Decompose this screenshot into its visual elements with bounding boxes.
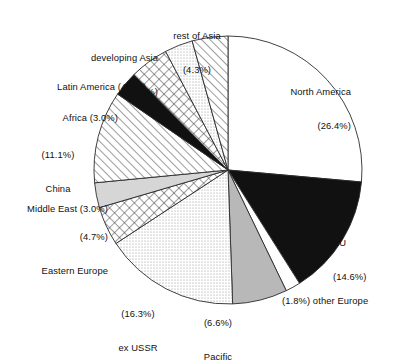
slice-label-pacific: (6.6%) Pacific	[186, 294, 250, 364]
slice-label-developing-asia: developing Asia (3.4%)	[54, 29, 158, 120]
slice-label-rest-of-asia-name: rest of Asia	[157, 30, 237, 41]
slice-label-rest-of-asia: rest of Asia (4.3%)	[157, 7, 237, 98]
slice-label-pacific-value: (6.6%)	[186, 317, 250, 328]
slice-label-ex-ussr-name: ex USSR	[97, 342, 179, 353]
slice-label-china-name: China	[26, 183, 90, 194]
slice-label-ex-ussr: (16.3%) ex USSR	[97, 285, 179, 364]
slice-label-china-value: (11.1%)	[26, 149, 90, 160]
slice-label-ex-ussr-value: (16.3%)	[97, 308, 179, 319]
slice-label-other-europe: (1.8%) other Europe	[282, 272, 397, 329]
slice-label-other-europe-text: (1.8%) other Europe	[282, 295, 397, 306]
slice-label-north-america-name: North America	[236, 86, 351, 97]
slice-label-eastern-europe-name: Eastern Europe	[0, 265, 108, 276]
slice-label-north-america-value: (26.4%)	[236, 120, 351, 131]
slice-label-rest-of-asia-value: (4.3%)	[157, 64, 237, 75]
slice-label-developing-asia-name: developing Asia	[54, 52, 158, 63]
slice-label-pacific-name: Pacific	[186, 351, 250, 362]
slice-label-developing-asia-value: (3.4%)	[54, 86, 158, 97]
slice-label-north-america: North America (26.4%)	[236, 63, 351, 154]
slice-label-eu-name: EU	[333, 237, 393, 248]
